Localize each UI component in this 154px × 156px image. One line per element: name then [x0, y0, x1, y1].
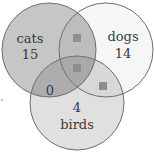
dogs-label: dogs [107, 29, 138, 44]
cats-dogs-square-marker [73, 34, 81, 42]
birds-count: 4 [73, 100, 81, 115]
stray-dot [1, 99, 3, 101]
dogs-birds-square-marker [99, 82, 107, 90]
cats-label: cats [17, 31, 44, 46]
cats-count: 15 [22, 47, 39, 62]
cats-birds-count: 0 [46, 83, 54, 98]
triple-square-marker [73, 64, 81, 72]
dogs-count: 14 [115, 46, 132, 61]
birds-label: birds [60, 117, 94, 132]
venn-diagram: cats 15 dogs 14 0 4 birds [0, 0, 154, 156]
